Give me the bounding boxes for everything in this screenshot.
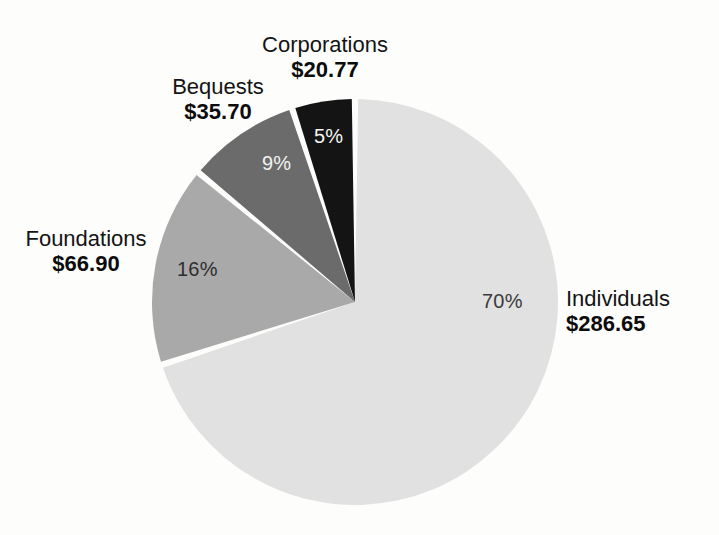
pie-label-foundations-category: Foundations bbox=[10, 226, 162, 251]
pie-label-bequests-amount: $35.70 bbox=[150, 99, 286, 125]
pie-percent-individuals: 70% bbox=[482, 290, 523, 313]
pie-label-corporations-amount: $20.77 bbox=[236, 57, 414, 83]
pie-label-foundations-amount: $66.90 bbox=[10, 251, 162, 277]
pie-percent-foundations: 16% bbox=[177, 258, 218, 281]
pie-label-individuals: Individuals $286.65 bbox=[566, 286, 670, 337]
pie-percent-corporations: 5% bbox=[314, 125, 343, 148]
pie-label-corporations-category: Corporations bbox=[236, 32, 414, 57]
pie-label-individuals-amount: $286.65 bbox=[566, 311, 670, 337]
pie-label-corporations: Corporations $20.77 bbox=[236, 32, 414, 83]
pie-label-individuals-category: Individuals bbox=[566, 286, 670, 311]
chart-canvas: 70% 16% 9% 5% Individuals $286.65 Founda… bbox=[0, 0, 719, 535]
pie-percent-bequests: 9% bbox=[262, 152, 291, 175]
pie-label-foundations: Foundations $66.90 bbox=[10, 226, 162, 277]
